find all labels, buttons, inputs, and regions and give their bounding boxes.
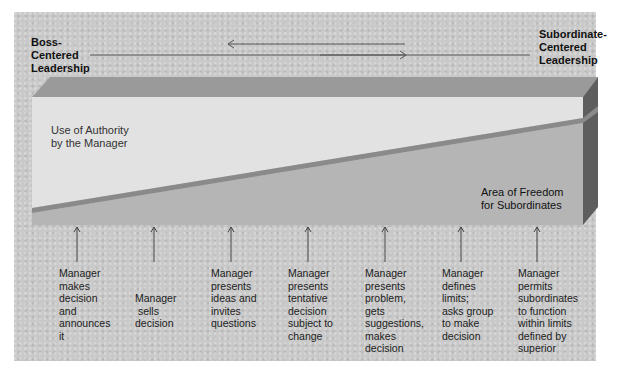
behavior-5: Managerpresentsproblem,getssuggestions,m…: [365, 267, 424, 355]
text-line: Boss-: [31, 36, 90, 49]
text-line: Centered: [539, 41, 607, 54]
subordinate-centered-label: Subordinate- Centered Leadership: [539, 28, 607, 67]
text-line: presents: [211, 280, 257, 293]
text-line: presents: [365, 280, 424, 293]
text-line: permits: [518, 280, 578, 293]
text-line: to make: [442, 317, 493, 330]
behavior-4: Managerpresentstentativedecisionsubject …: [288, 267, 333, 342]
text-line: decision: [135, 317, 176, 330]
text-line: limits;: [442, 292, 493, 305]
text-line: suggestions,: [365, 317, 424, 330]
text-line: Manager: [442, 267, 493, 280]
text-line: Manager: [518, 267, 578, 280]
box-side-face: [583, 77, 598, 225]
box-top-face: [32, 77, 598, 97]
behavior-2: Manager sellsdecision: [135, 267, 176, 342]
text-line: Manager: [135, 292, 176, 305]
text-line: presents: [288, 280, 333, 293]
behavior-6: Managerdefineslimits;asks groupto makede…: [442, 267, 493, 342]
text-line: problem,: [365, 292, 424, 305]
text-line: and: [59, 305, 110, 318]
authority-label: Use of Authority by the Manager: [51, 124, 129, 150]
text-line: decision: [59, 292, 110, 305]
text-line: gets: [365, 305, 424, 318]
text-line: questions: [211, 317, 257, 330]
text-line: to function: [518, 305, 578, 318]
text-line: makes: [59, 280, 110, 293]
text-line: subordinates: [518, 292, 578, 305]
text-line: superior: [518, 342, 578, 355]
text-line: announces: [59, 317, 110, 330]
text-line: Leadership: [31, 62, 90, 75]
text-line: Area of Freedom: [481, 186, 564, 199]
text-line: it: [59, 330, 110, 343]
text-line: within limits: [518, 317, 578, 330]
text-line: Leadership: [539, 54, 607, 67]
behavior-3: Managerpresentsideas andinvitesquestions: [211, 267, 257, 330]
text-line: Manager: [211, 267, 257, 280]
text-line: defines: [442, 280, 493, 293]
boss-centered-label: Boss- Centered Leadership: [31, 36, 90, 75]
text-line: change: [288, 330, 333, 343]
text-line: by the Manager: [51, 137, 129, 150]
freedom-label: Area of Freedom for Subordinates: [481, 186, 564, 212]
text-line: ideas and: [211, 292, 257, 305]
text-line: for Subordinates: [481, 199, 564, 212]
text-line: decision: [365, 342, 424, 355]
text-line: Manager: [59, 267, 110, 280]
behavior-7: Managerpermitssubordinatesto functionwit…: [518, 267, 578, 355]
text-line: tentative: [288, 292, 333, 305]
text-line: decision: [442, 330, 493, 343]
text-line: decision: [288, 305, 333, 318]
text-line: makes: [365, 330, 424, 343]
text-line: invites: [211, 305, 257, 318]
text-line: Manager: [288, 267, 333, 280]
text-line: Use of Authority: [51, 124, 129, 137]
text-line: Subordinate-: [539, 28, 607, 41]
text-line: subject to: [288, 317, 333, 330]
text-line: Centered: [31, 49, 90, 62]
behavior-arrows: [74, 227, 540, 262]
behavior-1: Managermakesdecisionandannouncesit: [59, 267, 110, 342]
text-line: defined by: [518, 330, 578, 343]
text-line: sells: [135, 305, 176, 318]
text-line: Manager: [365, 267, 424, 280]
text-line: asks group: [442, 305, 493, 318]
